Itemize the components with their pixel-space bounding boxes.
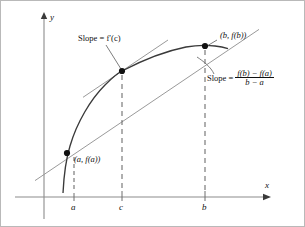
mvt-figure: y x a c b (a, f(a)) (b, f(b)) Slope = f′… (0, 0, 305, 227)
x-axis-label: x (265, 181, 269, 190)
diagram-canvas (1, 1, 305, 227)
secant-slope-fraction: f(b) − f(a) b − a (235, 69, 274, 87)
secant-slope-annotation: Slope = f(b) − f(a) b − a (207, 69, 274, 87)
tick-label-a: a (71, 203, 76, 212)
secant-slope-prefix: Slope = (207, 74, 233, 83)
y-axis-label: y (50, 13, 54, 22)
secant-denominator: b − a (235, 78, 274, 87)
point-b-marker (202, 43, 208, 49)
point-b-label: (b, f(b)) (220, 31, 246, 40)
point-a-label: (a, f(a)) (74, 155, 100, 164)
leader-line-tangent (106, 45, 121, 69)
point-c-marker (119, 68, 125, 74)
secant-line (35, 29, 259, 180)
y-axis-arrow (41, 12, 47, 19)
point-a-marker (64, 150, 70, 156)
tick-label-c: c (119, 203, 123, 212)
tick-label-b: b (202, 203, 207, 212)
tangent-slope-label: Slope = f′(c) (78, 34, 121, 43)
x-axis-arrow (263, 194, 271, 201)
